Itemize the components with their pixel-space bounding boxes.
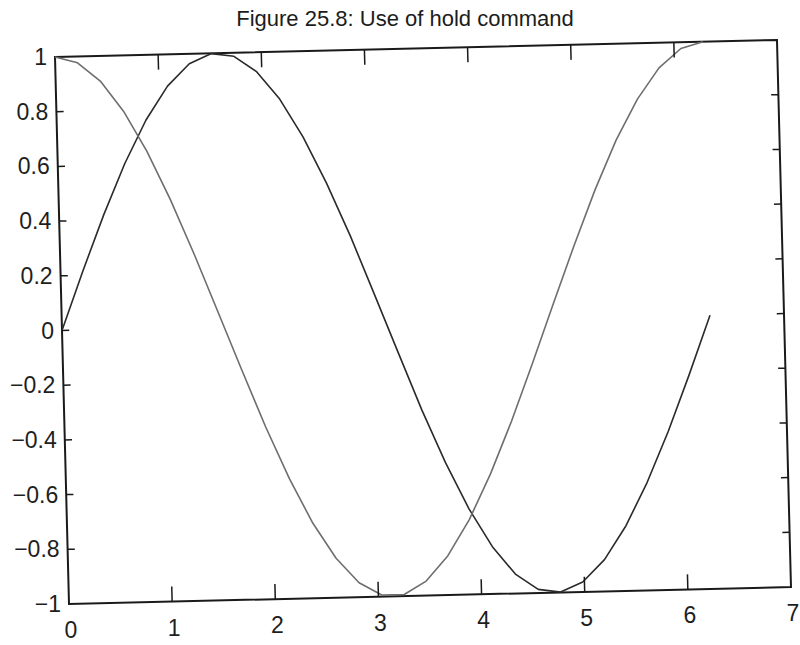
y-tick-label: 0.8 — [16, 99, 48, 125]
x-tick-label: 0 — [65, 617, 78, 643]
x-tick-label: 3 — [374, 610, 387, 636]
tick-labels: 01234567−1−0.8−0.6−0.4−0.200.20.40.60.81 — [10, 44, 799, 643]
x-tick-label: 6 — [683, 602, 696, 628]
plot-frame — [55, 40, 791, 604]
y-tick-label: −0.2 — [10, 372, 55, 398]
series-line-sinx — [62, 54, 710, 593]
y-tick-label: 0 — [41, 318, 54, 344]
x-tick-label: 1 — [168, 615, 181, 641]
y-tick-label: 1 — [34, 44, 47, 70]
x-tick-label: 4 — [477, 607, 490, 633]
series-line-cosx — [55, 42, 703, 595]
y-tick-label: −0.8 — [14, 536, 59, 562]
y-tick-label: 0.2 — [21, 263, 53, 289]
y-tick-label: −1 — [35, 591, 61, 617]
x-tick-label: 5 — [580, 605, 593, 631]
x-tick-label: 7 — [787, 600, 800, 626]
line-chart: 01234567−1−0.8−0.6−0.4−0.200.20.40.60.81 — [0, 0, 800, 645]
y-tick-label: −0.4 — [11, 427, 57, 453]
x-tick-label: 2 — [271, 612, 284, 638]
plot-area — [55, 40, 791, 604]
y-tick-label: 0.6 — [18, 153, 50, 179]
y-tick-label: 0.4 — [19, 208, 51, 234]
y-tick-label: −0.6 — [13, 482, 58, 508]
